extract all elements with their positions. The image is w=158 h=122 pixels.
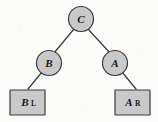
node-left-leaf-label: B bbox=[20, 96, 28, 108]
tree-diagram-figure: C B A B L A R bbox=[0, 0, 158, 122]
node-right-internal-label: A bbox=[110, 57, 118, 69]
edge-right-internal-to-right-leaf bbox=[122, 72, 136, 89]
node-right-leaf: A R bbox=[115, 90, 150, 115]
node-left-leaf: B L bbox=[10, 90, 45, 115]
node-left-internal-label: B bbox=[44, 57, 52, 69]
node-left-leaf-subscript: L bbox=[31, 99, 36, 108]
node-root: C bbox=[69, 7, 94, 32]
node-root-label: C bbox=[77, 13, 85, 25]
node-right-leaf-label: A bbox=[124, 96, 132, 108]
edge-root-to-right-internal bbox=[88, 29, 110, 53]
node-right-leaf-subscript: R bbox=[135, 99, 141, 108]
edge-left-internal-to-left-leaf bbox=[28, 72, 42, 89]
node-left-internal: B bbox=[37, 51, 62, 76]
node-right-internal: A bbox=[103, 51, 128, 76]
edge-root-to-left-internal bbox=[54, 29, 74, 53]
tree-diagram-canvas: C B A B L A R bbox=[0, 0, 158, 122]
